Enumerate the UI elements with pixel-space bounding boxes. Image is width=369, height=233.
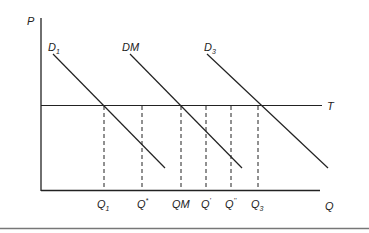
q3-label: Q3 [251, 198, 264, 212]
x-axis-label: Q [325, 200, 334, 212]
t-label: T [327, 100, 335, 112]
demand-chart: P Q T D1 DM D3 Q1 Q* QM Q' Q'' Q3 [0, 0, 369, 233]
dm-label: DM [122, 41, 140, 53]
qstar-label: Q* [137, 197, 149, 210]
q1-label: Q1 [97, 198, 110, 212]
d1-label: D1 [48, 41, 60, 55]
y-axis-label: P [27, 15, 35, 27]
d3-label: D3 [204, 41, 216, 55]
qprime-label: Q' [201, 197, 212, 210]
qdprime-label: Q'' [225, 197, 237, 210]
quantity-markers [104, 106, 258, 190]
d1-curve [53, 54, 165, 168]
qm-label: QM [172, 198, 191, 210]
